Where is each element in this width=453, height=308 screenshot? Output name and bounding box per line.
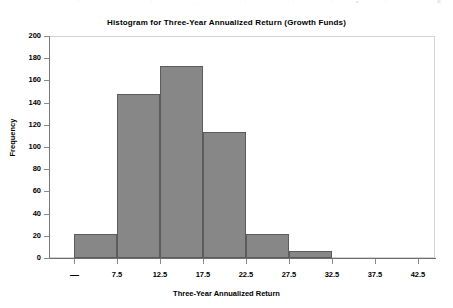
histogram-bar bbox=[289, 251, 332, 258]
x-axis-tick-label: 27.5 bbox=[269, 271, 309, 279]
x-axis-tick-label: — bbox=[54, 271, 94, 280]
y-axis-tick-label: 140 bbox=[0, 99, 41, 107]
histogram-bar bbox=[203, 132, 246, 259]
x-axis-tick bbox=[289, 259, 290, 264]
y-axis-tick-label: 0 bbox=[0, 254, 41, 262]
x-axis-tick bbox=[117, 259, 118, 264]
histogram-bars bbox=[49, 36, 435, 258]
x-axis-tick bbox=[74, 259, 75, 264]
x-axis-tick-label: 37.5 bbox=[355, 271, 395, 279]
x-axis-title: Three-Year Annualized Return bbox=[0, 289, 453, 298]
x-axis-tick bbox=[203, 259, 204, 264]
x-axis-tick bbox=[418, 259, 419, 264]
y-axis-tick-label: 200 bbox=[0, 32, 41, 40]
y-axis-tick-label: 80 bbox=[0, 165, 41, 173]
y-axis-tick-label: 60 bbox=[0, 187, 41, 195]
y-axis-tick-label: 20 bbox=[0, 232, 41, 240]
x-axis-tick-label: 7.5 bbox=[97, 271, 137, 279]
y-axis-title: Frequency bbox=[8, 108, 17, 168]
y-axis-tick-label: 160 bbox=[0, 76, 41, 84]
histogram-bar bbox=[74, 234, 117, 258]
histogram-bar bbox=[160, 66, 203, 258]
x-axis-tick bbox=[332, 259, 333, 264]
x-axis-tick-label: 42.5 bbox=[398, 271, 438, 279]
y-axis-tick-label: 180 bbox=[0, 54, 41, 62]
histogram-chart: Histogram for Three-Year Annualized Retu… bbox=[0, 0, 453, 308]
x-axis-tick-label: 32.5 bbox=[312, 271, 352, 279]
y-axis-tick bbox=[44, 258, 50, 259]
x-axis-tick-label: 12.5 bbox=[140, 271, 180, 279]
y-axis-tick-label: 100 bbox=[0, 143, 41, 151]
x-axis-tick bbox=[375, 259, 376, 264]
histogram-bar bbox=[117, 94, 160, 258]
x-axis-tick-label: 17.5 bbox=[183, 271, 223, 279]
x-axis-tick bbox=[160, 259, 161, 264]
chart-title: Histogram for Three-Year Annualized Retu… bbox=[0, 18, 453, 27]
x-axis-line bbox=[49, 258, 436, 259]
x-axis-tick bbox=[246, 259, 247, 264]
y-axis-tick-label: 40 bbox=[0, 210, 41, 218]
y-axis-tick-label: 120 bbox=[0, 121, 41, 129]
histogram-bar bbox=[246, 234, 289, 258]
x-axis-tick-label: 22.5 bbox=[226, 271, 266, 279]
